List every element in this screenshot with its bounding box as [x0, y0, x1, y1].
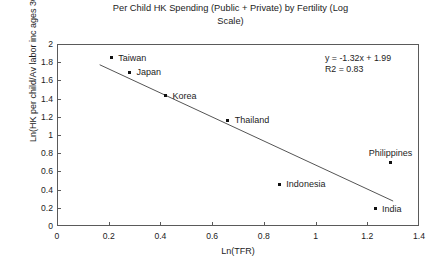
- data-point-label: India: [382, 204, 402, 214]
- x-tick-mark: [316, 222, 317, 226]
- x-tick-label: 1.4: [402, 231, 436, 241]
- data-point-label: Taiwan: [118, 53, 146, 63]
- x-tick-mark: [212, 222, 213, 226]
- data-point-label: Indonesia: [286, 179, 325, 189]
- regression-equation: y = -1.32x + 1.99 R2 = 0.83: [325, 53, 391, 74]
- y-tick-label: 1.2: [27, 112, 53, 122]
- y-tick-label: 2: [27, 39, 53, 49]
- y-tick-label: 0.4: [27, 185, 53, 195]
- x-tick-label: 1.2: [350, 231, 384, 241]
- y-tick-mark: [57, 44, 61, 45]
- x-tick-mark: [264, 222, 265, 226]
- y-tick-mark: [57, 135, 61, 136]
- data-point-label: Korea: [173, 91, 197, 101]
- y-tick-mark: [57, 171, 61, 172]
- x-tick-label: 0: [40, 231, 74, 241]
- x-tick-mark: [160, 222, 161, 226]
- x-tick-mark: [109, 222, 110, 226]
- y-tick-label: 0.6: [27, 166, 53, 176]
- data-point-marker: [226, 119, 229, 122]
- data-point-label: Japan: [136, 67, 161, 77]
- x-tick-label: 0.2: [92, 231, 126, 241]
- y-tick-label: 0: [27, 221, 53, 231]
- data-point-label: Philippines: [369, 148, 413, 158]
- data-point-marker: [128, 71, 131, 74]
- data-point-label: Thailand: [235, 115, 270, 125]
- y-tick-label: 1: [27, 130, 53, 140]
- data-point-marker: [278, 183, 281, 186]
- data-point-marker: [110, 56, 113, 59]
- y-tick-label: 1.6: [27, 75, 53, 85]
- x-tick-label: 0.4: [143, 231, 177, 241]
- y-tick-mark: [57, 208, 61, 209]
- x-tick-mark: [367, 222, 368, 226]
- x-tick-label: 0.8: [247, 231, 281, 241]
- chart-container: Per Child HK Spending (Public + Private)…: [0, 0, 446, 266]
- y-tick-mark: [57, 117, 61, 118]
- y-tick-mark: [57, 190, 61, 191]
- y-tick-label: 1.8: [27, 57, 53, 67]
- data-point-marker: [389, 161, 392, 164]
- y-tick-mark: [57, 99, 61, 100]
- data-point-marker: [374, 207, 377, 210]
- y-tick-mark: [57, 80, 61, 81]
- data-point-marker: [164, 94, 167, 97]
- x-tick-label: 0.6: [195, 231, 229, 241]
- y-tick-label: 0.2: [27, 203, 53, 213]
- chart-title: Per Child HK Spending (Public + Private)…: [58, 2, 403, 27]
- y-tick-mark: [57, 153, 61, 154]
- y-tick-label: 0.8: [27, 148, 53, 158]
- x-tick-label: 1: [299, 231, 333, 241]
- x-axis-title: Ln(TFR): [57, 246, 419, 256]
- y-tick-mark: [57, 62, 61, 63]
- y-tick-label: 1.4: [27, 94, 53, 104]
